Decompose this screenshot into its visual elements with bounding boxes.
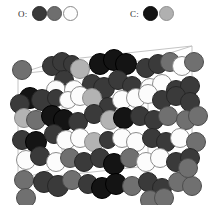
atom-o-gray [14,170,34,190]
legend-swatch-o-dark [32,6,47,21]
legend-swatch-c-black [143,6,158,21]
atom-o-gray [154,188,174,205]
atom-o-gray [184,52,204,72]
legend-oxygen: O: [18,6,78,22]
legend-carbon: C: [130,6,175,22]
legend-oxygen-swatches [32,6,78,22]
legend-swatch-c-gray [159,6,174,21]
legend-carbon-swatches [143,6,175,22]
unit-cell-structure: a b c [0,28,213,205]
legend-oxygen-label: O: [18,10,28,19]
atom-o-gray [16,188,36,205]
legend-swatch-o-white [63,6,78,21]
atom-o-gray [178,158,198,178]
legend-swatch-o-gray [47,6,62,21]
atom-o-gray [12,60,32,80]
legend-carbon-label: C: [130,10,139,19]
atom-o-gray [158,106,178,126]
crystal-structure-figure: O: C: a b c [0,0,213,205]
atom-o-gray [182,176,202,196]
atom-o-gray [188,106,208,126]
